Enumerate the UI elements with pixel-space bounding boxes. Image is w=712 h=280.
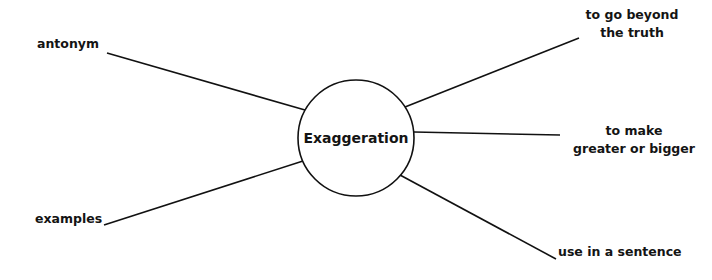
connector-use-in-sentence [400,175,556,259]
branch-text: use in a sentence [558,243,682,261]
branch-text-line-2: the truth [586,24,679,42]
connector-to-make-greater [414,132,560,135]
branch-text-line-2: greater or bigger [573,140,695,158]
branch-text-line-1: to make [573,122,695,140]
connector-antonym [107,53,305,110]
branch-label-to-make-greater: to make greater or bigger [573,122,695,158]
branch-text: examples [35,210,102,228]
branch-label-use-in-sentence: use in a sentence [558,243,682,261]
connector-to-go-beyond [405,38,579,107]
connector-examples [104,161,303,225]
branch-text-line-1: to go beyond [586,6,679,24]
branch-label-examples: examples [35,210,102,228]
branch-label-to-go-beyond: to go beyond the truth [586,6,679,42]
center-concept-label: Exaggeration [303,130,408,146]
branch-label-antonym: antonym [37,35,99,53]
branch-text: antonym [37,35,99,53]
